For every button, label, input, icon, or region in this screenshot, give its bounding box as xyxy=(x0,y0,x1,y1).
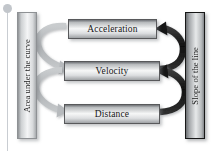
arrow-distance-to-velocity xyxy=(156,65,185,113)
node-distance: Distance xyxy=(64,104,160,124)
node-velocity-label: Velocity xyxy=(96,66,129,76)
node-velocity: Velocity xyxy=(64,61,160,81)
label-box-left-text: Area under the curve xyxy=(23,39,32,113)
guide-line xyxy=(7,10,8,151)
node-acceleration-label: Acceleration xyxy=(87,24,137,34)
label-box-right-text: Slope of the line xyxy=(191,47,200,105)
label-box-slope-of-the-line: Slope of the line xyxy=(185,12,205,139)
pin-dot-icon xyxy=(3,4,12,13)
node-acceleration: Acceleration xyxy=(68,19,157,39)
diagram-canvas: Area under the curve Slope of the line A… xyxy=(0,0,218,151)
node-distance-label: Distance xyxy=(95,109,129,119)
label-box-area-under-the-curve: Area under the curve xyxy=(17,12,37,139)
